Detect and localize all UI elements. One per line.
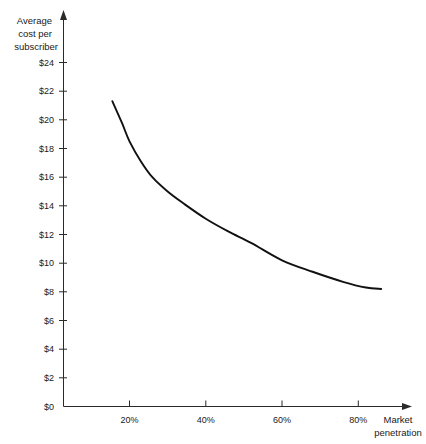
y-tick-label-18: $18 — [39, 144, 54, 154]
y-axis-title-line-1: Average — [17, 15, 52, 26]
y-tick-label-14: $14 — [39, 201, 54, 211]
x-axis-title-line-1: Market — [383, 414, 412, 425]
y-tick-label-20: $20 — [39, 115, 54, 125]
y-axis-title-line-3: subscriber — [14, 41, 58, 52]
x-axis-arrow-icon — [402, 403, 412, 410]
y-tick-label-10: $10 — [39, 258, 54, 268]
y-tick-label-2: $2 — [44, 373, 54, 383]
x-tick-label-80: 80% — [349, 415, 367, 425]
y-axis-title-line-2: cost per — [18, 28, 52, 39]
y-tick-label-4: $4 — [44, 344, 54, 354]
y-tick-label-0: $0 — [44, 402, 54, 412]
y-tick-label-16: $16 — [39, 172, 54, 182]
y-tick-label-8: $8 — [44, 287, 54, 297]
y-tick-label-12: $12 — [39, 230, 54, 240]
y-tick-label-6: $6 — [44, 316, 54, 326]
x-axis-title-line-2: penetration — [374, 427, 422, 438]
y-axis-arrow-icon — [60, 10, 67, 20]
x-tick-label-60: 60% — [273, 415, 291, 425]
cost-curve-chart: Average cost per subscriber $0 $2 $4 $ — [0, 0, 426, 444]
y-tick-label-22: $22 — [39, 86, 54, 96]
chart-container: Average cost per subscriber $0 $2 $4 $ — [0, 0, 426, 444]
x-tick-label-40: 40% — [197, 415, 215, 425]
x-tick-label-20: 20% — [120, 415, 138, 425]
x-axis-ticks — [130, 401, 359, 407]
y-tick-label-24: $24 — [39, 58, 54, 68]
average-cost-curve — [112, 101, 381, 289]
